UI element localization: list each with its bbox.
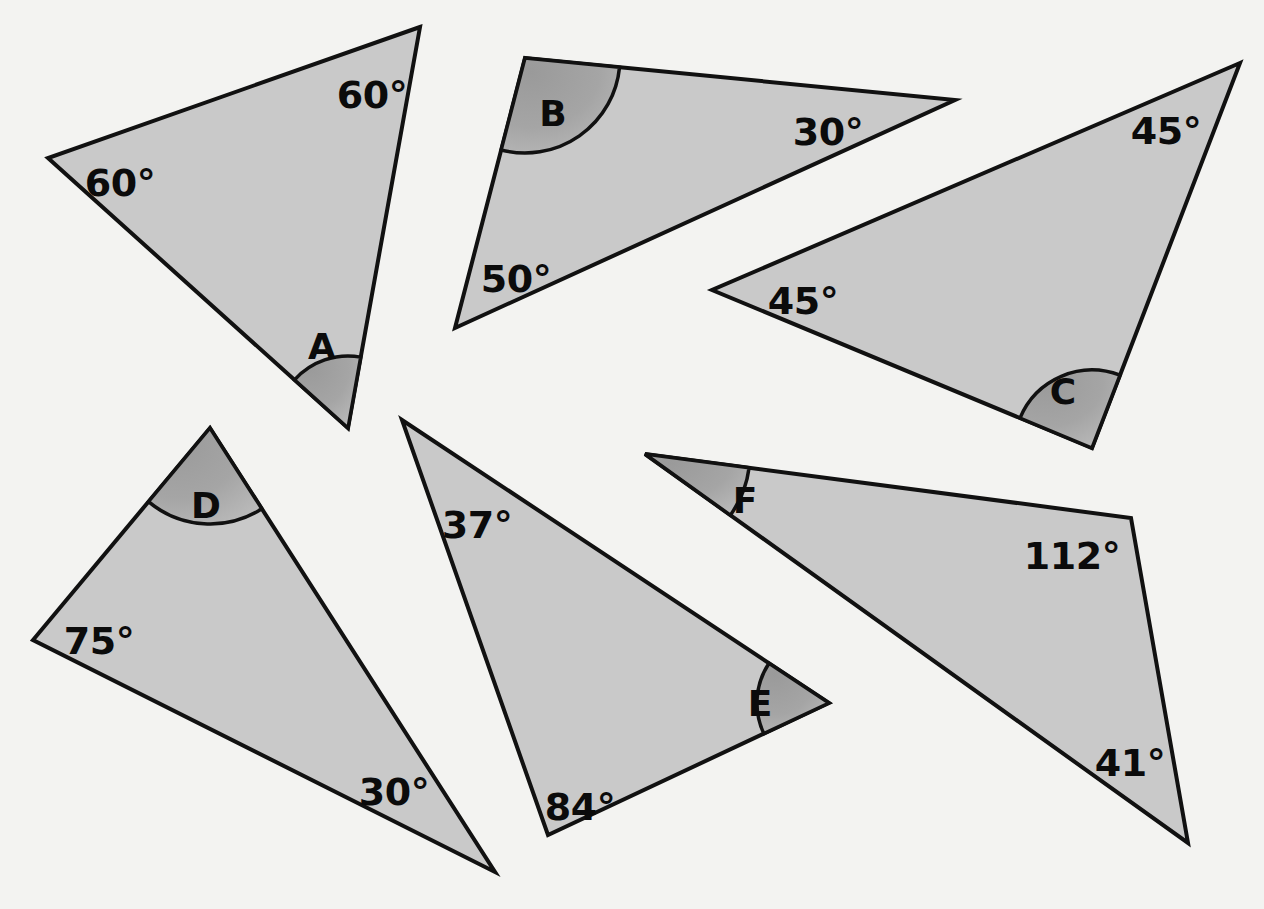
angle-label-e-2: 84° bbox=[545, 785, 615, 829]
angle-label-a-0: 60° bbox=[337, 73, 407, 117]
vertex-label-f: F bbox=[733, 480, 758, 521]
angle-label-c-1: 45° bbox=[768, 279, 838, 323]
angle-label-c-0: 45° bbox=[1131, 109, 1201, 153]
vertex-label-d: D bbox=[191, 485, 221, 526]
angle-label-b-1: 30° bbox=[793, 110, 863, 154]
vertex-label-e: E bbox=[748, 683, 773, 724]
angle-label-b-2: 50° bbox=[481, 257, 551, 301]
vertex-label-c: C bbox=[1050, 371, 1076, 412]
angle-label-d-2: 30° bbox=[359, 770, 429, 814]
angle-label-d-1: 75° bbox=[64, 619, 134, 663]
shapes-layer bbox=[33, 27, 1240, 872]
angle-label-f-1: 112° bbox=[1024, 534, 1120, 578]
angle-label-a-1: 60° bbox=[85, 161, 155, 205]
triangles-figure: 60°60°AB30°50°45°45°CD75°30°37°E84°F112°… bbox=[0, 0, 1264, 909]
angle-label-f-2: 41° bbox=[1095, 741, 1165, 785]
angle-label-e-0: 37° bbox=[442, 503, 512, 547]
vertex-label-a: A bbox=[308, 326, 336, 367]
worksheet-canvas: 60°60°AB30°50°45°45°CD75°30°37°E84°F112°… bbox=[0, 0, 1264, 909]
vertex-label-b: B bbox=[539, 93, 566, 134]
